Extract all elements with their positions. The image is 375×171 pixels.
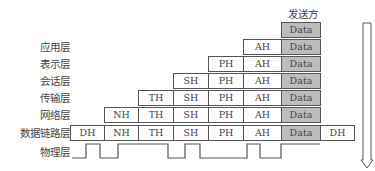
physical-signal-waveform xyxy=(0,0,375,171)
down-arrow-icon xyxy=(360,22,374,170)
